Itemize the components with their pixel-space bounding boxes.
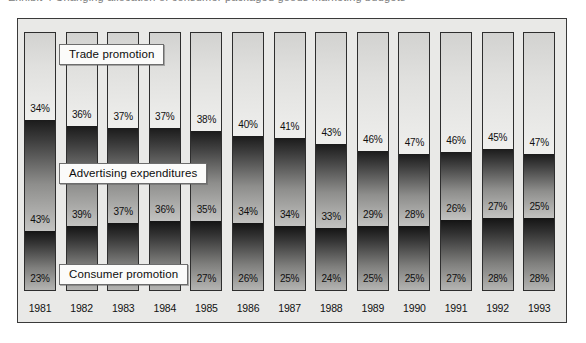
x-axis-tick-1990: 1990 (392, 302, 436, 314)
segment-value-label: 40% (238, 119, 257, 130)
x-axis-tick-1982: 1982 (60, 302, 104, 314)
segment-value-label: 28% (529, 273, 548, 284)
segment-value-label: 34% (238, 206, 257, 217)
segment-value-label: 35% (197, 204, 216, 215)
segment-value-label: 41% (280, 121, 299, 132)
caption-strip: Exhibit 4 Changing allocation of consume… (0, 0, 586, 13)
bar-segment-bottom: 28% (524, 218, 554, 290)
segment-value-label: 47% (405, 137, 424, 148)
stacked-bar-1989: 46%29%25% (357, 32, 389, 291)
callout-trade-promotion-label: Trade promotion (69, 48, 154, 60)
stacked-bar-1986: 40%34%26% (232, 32, 264, 291)
chart-plot-area: 34%43%23%36%39%25%37%37%26%37%36%27%38%3… (17, 18, 567, 323)
x-axis-tick-1986: 1986 (226, 302, 270, 314)
x-axis-tick-1983: 1983 (101, 302, 145, 314)
segment-value-label: 27% (488, 201, 507, 212)
bar-segment-top: 38% (191, 33, 221, 131)
stacked-bar-1982: 36%39%25% (66, 32, 98, 291)
segment-value-label: 36% (72, 109, 91, 120)
bar-segment-top: 47% (399, 33, 429, 154)
stacked-bar-1991: 46%26%27% (440, 32, 472, 291)
segment-value-label: 46% (446, 135, 465, 146)
segment-value-label: 26% (238, 273, 257, 284)
stacked-bar-1993: 47%25%28% (523, 32, 555, 291)
segment-value-label: 27% (197, 273, 216, 284)
segment-value-label: 34% (280, 209, 299, 220)
segment-value-label: 26% (446, 203, 465, 214)
segment-value-label: 27% (446, 273, 465, 284)
bar-segment-middle: 25% (524, 154, 554, 218)
segment-value-label: 25% (280, 273, 299, 284)
stacked-bar-1984: 37%36%27% (149, 32, 181, 291)
segment-value-label: 25% (405, 273, 424, 284)
stacked-bar-1987: 41%34%25% (274, 32, 306, 291)
segment-value-label: 43% (321, 127, 340, 138)
bar-segment-top: 34% (25, 33, 55, 120)
bar-segment-middle: 29% (358, 151, 388, 226)
x-axis-tick-1985: 1985 (184, 302, 228, 314)
segment-value-label: 39% (72, 209, 91, 220)
segment-value-label: 24% (321, 273, 340, 284)
bar-segment-middle: 43% (25, 120, 55, 231)
bar-segment-bottom: 26% (233, 223, 263, 290)
bar-segment-top: 43% (316, 33, 346, 144)
segment-value-label: 28% (488, 273, 507, 284)
segment-value-label: 37% (155, 111, 174, 122)
bar-segment-bottom: 23% (25, 231, 55, 290)
segment-value-label: 47% (529, 137, 548, 148)
segment-value-label: 28% (405, 209, 424, 220)
bar-segment-bottom: 27% (441, 220, 471, 290)
bar-segment-middle: 28% (399, 154, 429, 226)
bar-segment-top: 47% (524, 33, 554, 154)
x-axis-tick-1993: 1993 (517, 302, 561, 314)
segment-value-label: 34% (30, 103, 49, 114)
stacked-bar-1992: 45%27%28% (482, 32, 514, 291)
segment-value-label: 37% (113, 206, 132, 217)
segment-value-label: 25% (363, 273, 382, 284)
bar-segment-middle: 33% (316, 144, 346, 229)
bar-segment-middle: 34% (233, 136, 263, 223)
callout-advertising-expenditures: Advertising expenditures (59, 163, 207, 184)
bar-segment-bottom: 25% (275, 226, 305, 290)
bar-segment-middle: 26% (441, 152, 471, 219)
bar-segment-middle: 34% (275, 138, 305, 225)
bar-segment-bottom: 24% (316, 228, 346, 290)
stacked-bar-1981: 34%43%23% (24, 32, 56, 291)
caption-text: Exhibit 4 Changing allocation of consume… (8, 0, 406, 3)
stacked-bar-1983: 37%37%26% (107, 32, 139, 291)
x-axis-tick-1988: 1988 (309, 302, 353, 314)
stacked-bar-1988: 43%33%24% (315, 32, 347, 291)
stacked-bar-1985: 38%35%27% (190, 32, 222, 291)
callout-consumer-promotion-label: Consumer promotion (69, 268, 178, 280)
segment-value-label: 25% (529, 201, 548, 212)
callout-trade-promotion: Trade promotion (59, 44, 164, 65)
segment-value-label: 37% (113, 111, 132, 122)
stacked-bar-1990: 47%28%25% (398, 32, 430, 291)
x-axis-tick-1984: 1984 (143, 302, 187, 314)
bar-segment-top: 46% (358, 33, 388, 151)
bar-segment-top: 45% (483, 33, 513, 149)
segment-value-label: 29% (363, 209, 382, 220)
bar-segment-bottom: 28% (483, 218, 513, 290)
bar-segment-bottom: 25% (358, 226, 388, 290)
segment-value-label: 38% (197, 114, 216, 125)
segment-value-label: 33% (321, 211, 340, 222)
segment-value-label: 23% (30, 273, 49, 284)
segment-value-label: 43% (30, 214, 49, 225)
bar-segment-middle: 27% (483, 149, 513, 218)
x-axis-tick-1987: 1987 (268, 302, 312, 314)
bar-segment-top: 40% (233, 33, 263, 136)
segment-value-label: 46% (363, 134, 382, 145)
segment-value-label: 45% (488, 132, 507, 143)
bar-segment-bottom: 25% (399, 226, 429, 290)
x-axis-tick-1989: 1989 (351, 302, 395, 314)
callout-consumer-promotion: Consumer promotion (59, 264, 188, 285)
bar-segment-top: 41% (275, 33, 305, 138)
segment-value-label: 36% (155, 204, 174, 215)
callout-advertising-expenditures-label: Advertising expenditures (69, 167, 197, 179)
x-axis-tick-1992: 1992 (476, 302, 520, 314)
x-axis-tick-1991: 1991 (434, 302, 478, 314)
x-axis-tick-1981: 1981 (18, 302, 62, 314)
bar-segment-bottom: 27% (191, 221, 221, 290)
bar-segment-top: 46% (441, 33, 471, 152)
